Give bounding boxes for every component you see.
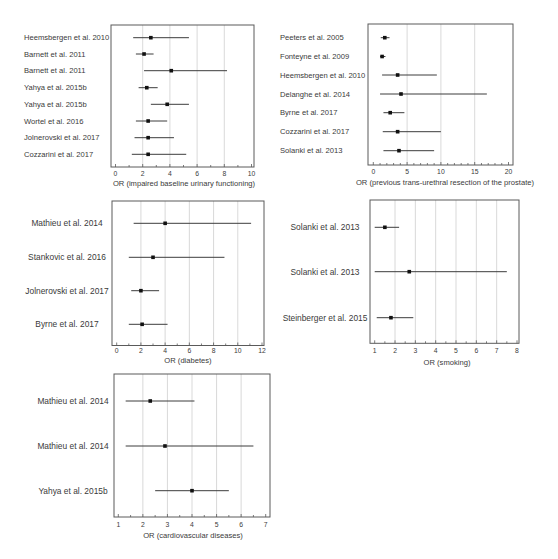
x-tick-label: 2	[141, 170, 145, 177]
forest-plot-urinary-functioning: 0246810OR (impaired baseline urinary fun…	[24, 25, 256, 188]
study-row: Mathieu et al. 2014	[37, 396, 194, 406]
forest-plot-figure: 0246810OR (impaired baseline urinary fun…	[0, 0, 558, 559]
study-label: Wortel et al. 2016	[24, 117, 83, 126]
study-row: Byrne et al. 2017	[35, 319, 167, 329]
odds-ratio-marker-icon	[190, 489, 194, 493]
study-label: Delanghe et al. 2014	[280, 90, 350, 99]
study-label: Byrne et al. 2017	[280, 108, 337, 117]
x-tick-label: 5	[405, 168, 409, 175]
forest-plot-diabetes: 024681012OR (diabetes)Mathieu et al. 201…	[25, 201, 266, 365]
study-row: Solanki et al. 2013	[291, 222, 400, 232]
odds-ratio-marker-icon	[145, 86, 149, 90]
study-row: Heemsbergen et al. 2010	[24, 33, 189, 42]
x-tick-label: 0	[115, 347, 119, 354]
study-row: Jolnerovski et al. 2017	[24, 133, 174, 142]
x-tick-label: 3	[413, 347, 417, 354]
odds-ratio-marker-icon	[397, 149, 401, 153]
study-row: Steinberger et al. 2015	[283, 313, 414, 323]
x-tick-label: 4	[434, 347, 438, 354]
study-row: Solanki et al. 2013	[280, 146, 434, 155]
study-label: Solanki et al. 2013	[291, 267, 360, 277]
x-tick-label: 7	[495, 347, 499, 354]
odds-ratio-marker-icon	[142, 52, 146, 56]
x-tick-label: 6	[187, 347, 191, 354]
x-tick-label: 3	[166, 521, 170, 528]
study-label: Peeters et al. 2005	[280, 33, 344, 42]
study-label: Solanki et al. 2013	[291, 222, 360, 232]
study-row: Barnett et al. 2011	[24, 66, 227, 75]
study-label: Cozzarini et al. 2017	[24, 150, 93, 159]
x-tick-label: 10	[248, 170, 256, 177]
x-tick-label: 1	[373, 347, 377, 354]
forest-plot-smoking: 12345678OR (smoking)Solanki et al. 2013S…	[283, 200, 519, 367]
odds-ratio-marker-icon	[389, 316, 393, 320]
odds-ratio-marker-icon	[148, 399, 152, 403]
study-row: Yahya et al. 2015b	[24, 83, 158, 92]
study-label: Yahya et al. 2015b	[24, 83, 87, 92]
odds-ratio-marker-icon	[396, 130, 400, 134]
x-axis-title: OR (impaired baseline urinary functionin…	[113, 179, 256, 188]
odds-ratio-marker-icon	[139, 289, 143, 293]
x-tick-label: 2	[141, 521, 145, 528]
plot-frame	[111, 25, 254, 167]
x-tick-label: 4	[190, 521, 194, 528]
study-label: Mathieu et al. 2014	[37, 396, 109, 406]
odds-ratio-marker-icon	[396, 73, 400, 77]
study-label: Mathieu et al. 2014	[37, 441, 109, 451]
odds-ratio-marker-icon	[146, 136, 150, 140]
x-tick-label: 8	[515, 347, 519, 354]
x-tick-label: 5	[215, 521, 219, 528]
x-tick-label: 10	[437, 168, 445, 175]
study-label: Fonteyne et al. 2009	[280, 52, 349, 61]
study-row: Solanki et al. 2013	[291, 267, 507, 277]
study-label: Barnett et al. 2011	[24, 50, 86, 59]
study-label: Barnett et al. 2011	[24, 66, 86, 75]
study-label: Stankovic et al. 2016	[28, 252, 106, 262]
odds-ratio-marker-icon	[388, 111, 392, 115]
x-tick-label: 2	[393, 347, 397, 354]
x-axis-title: OR (diabetes)	[164, 356, 212, 365]
study-label: Mathieu et al. 2014	[31, 218, 103, 228]
study-row: Barnett et al. 2011	[24, 50, 154, 59]
odds-ratio-marker-icon	[380, 55, 384, 59]
x-tick-label: 7	[264, 521, 268, 528]
x-tick-label: 8	[222, 170, 226, 177]
x-tick-label: 2	[139, 347, 143, 354]
odds-ratio-marker-icon	[146, 153, 150, 157]
x-tick-label: 6	[195, 170, 199, 177]
odds-ratio-marker-icon	[146, 119, 150, 123]
study-row: Fonteyne et al. 2009	[280, 52, 385, 61]
study-row: Heemsbergen et al. 2010	[280, 71, 437, 80]
odds-ratio-marker-icon	[383, 36, 387, 40]
odds-ratio-marker-icon	[169, 69, 173, 73]
x-tick-label: 15	[471, 168, 479, 175]
study-row: Cozzarini et al. 2017	[280, 127, 441, 136]
study-row: Jolnerovski et al. 2017	[25, 286, 159, 296]
odds-ratio-marker-icon	[165, 103, 169, 107]
study-row: Cozzarini et al. 2017	[24, 150, 186, 159]
study-row: Wortel et al. 2016	[24, 117, 167, 126]
odds-ratio-marker-icon	[163, 222, 167, 226]
x-tick-label: 20	[505, 168, 513, 175]
x-tick-label: 4	[163, 347, 167, 354]
forest-plot-turp: 05101520OR (previous trans-urethral rese…	[280, 24, 535, 187]
x-axis-title: OR (smoking)	[424, 358, 471, 367]
odds-ratio-marker-icon	[151, 256, 155, 260]
x-tick-label: 8	[212, 347, 216, 354]
study-label: Heemsbergen et al. 2010	[24, 33, 109, 42]
x-tick-label: 6	[239, 521, 243, 528]
study-label: Yahya et al. 2015b	[38, 486, 108, 496]
odds-ratio-marker-icon	[140, 323, 144, 327]
study-label: Byrne et al. 2017	[35, 319, 99, 329]
study-row: Stankovic et al. 2016	[28, 252, 224, 262]
study-row: Yahya et al. 2015b	[38, 486, 228, 496]
study-label: Steinberger et al. 2015	[283, 313, 368, 323]
study-row: Yahya et al. 2015b	[24, 100, 189, 109]
odds-ratio-marker-icon	[399, 92, 403, 96]
study-row: Mathieu et al. 2014	[37, 441, 253, 451]
odds-ratio-marker-icon	[163, 444, 167, 448]
x-axis-title: OR (cardiovascular diseases)	[143, 531, 243, 540]
x-tick-label: 5	[454, 347, 458, 354]
odds-ratio-marker-icon	[383, 226, 387, 230]
study-row: Byrne et al. 2017	[280, 108, 404, 117]
